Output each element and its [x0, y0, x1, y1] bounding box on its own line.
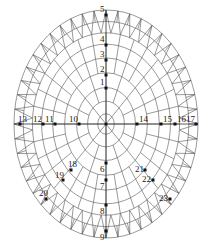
node-marker-22 — [152, 179, 155, 182]
node-label-6: 6 — [100, 164, 105, 174]
node-label-10: 10 — [69, 114, 79, 124]
node-marker-2 — [105, 74, 108, 77]
dome-lattice-diagram: 1234567891011121314151617181920212223 — [0, 0, 212, 248]
node-label-14: 14 — [139, 114, 149, 124]
node-label-2: 2 — [100, 64, 105, 74]
center-node — [104, 122, 107, 125]
node-label-12: 12 — [33, 114, 42, 124]
node-label-13: 13 — [18, 114, 28, 124]
node-marker-5 — [105, 14, 108, 17]
node-marker-7 — [105, 179, 108, 182]
measurement-nodes: 1234567891011121314151617181920212223 — [18, 4, 198, 242]
node-label-5: 5 — [100, 4, 105, 14]
node-marker-1 — [105, 87, 108, 90]
node-marker-3 — [105, 59, 108, 62]
node-marker-11 — [54, 123, 57, 126]
node-marker-9 — [105, 230, 108, 233]
node-label-18: 18 — [68, 159, 78, 169]
node-marker-8 — [105, 204, 108, 207]
node-label-22: 22 — [142, 174, 151, 184]
node-marker-6 — [105, 162, 108, 165]
node-label-20: 20 — [39, 188, 49, 198]
node-label-21: 21 — [135, 164, 144, 174]
node-label-7: 7 — [100, 181, 105, 191]
node-label-23: 23 — [159, 193, 169, 203]
node-marker-4 — [105, 44, 108, 47]
node-label-19: 19 — [55, 170, 65, 180]
node-label-11: 11 — [45, 114, 54, 124]
node-label-17: 17 — [186, 114, 196, 124]
node-label-8: 8 — [100, 206, 105, 216]
node-label-15: 15 — [163, 114, 173, 124]
node-label-1: 1 — [100, 77, 105, 87]
node-label-3: 3 — [100, 49, 105, 59]
node-label-4: 4 — [100, 34, 105, 44]
node-label-9: 9 — [100, 232, 105, 242]
node-marker-23 — [169, 198, 172, 201]
